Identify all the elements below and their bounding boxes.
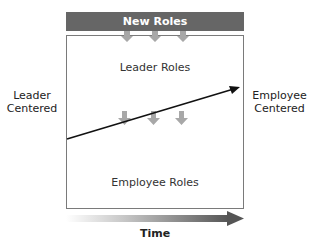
down-arrow-icon — [177, 31, 189, 42]
down-arrow-icon — [175, 111, 188, 125]
time-label: Time — [66, 227, 244, 240]
down-arrow-icon — [121, 31, 133, 42]
diagram-graphics — [0, 0, 311, 244]
down-arrow-icon — [149, 31, 161, 42]
time-arrow-icon — [66, 211, 244, 226]
trend-arrow-icon — [67, 86, 240, 139]
